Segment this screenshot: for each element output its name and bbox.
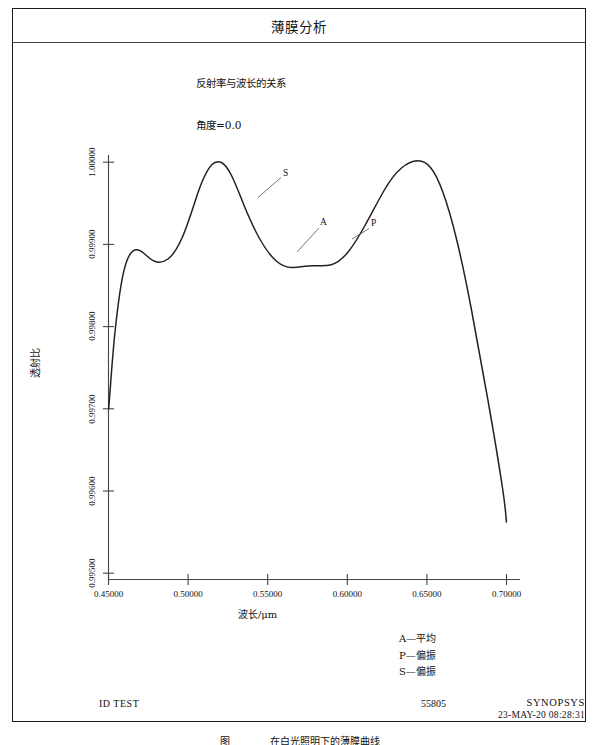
page-title: 薄膜分析 — [271, 16, 327, 36]
chart-subtitle-line2: 角度=0.0 — [196, 118, 286, 132]
x-axis-title: 波长/μm — [238, 606, 277, 621]
y-axis-title: 透射比 — [27, 323, 42, 403]
chart-subtitle-block: 反射率与波长的关系 角度=0.0 — [196, 48, 286, 160]
y-tick-label-0: 1.00000 — [87, 132, 97, 192]
x-tick-label-3: 0.60000 — [312, 589, 382, 599]
x-tick-label-5: 0.70000 — [472, 589, 542, 599]
legend: A—平均 P—偏振 S—偏振 — [399, 631, 436, 681]
screenshot-root: 薄膜分析 反射率与波长的关系 角度=0.0 — [0, 0, 599, 745]
x-tick-label-1: 0.50000 — [153, 589, 223, 599]
curve-label-a: A — [320, 217, 327, 227]
y-tick-label-1: 0.99900 — [87, 214, 97, 274]
curve-label-s: S — [283, 168, 288, 178]
footer-id-label: ID TEST — [99, 698, 139, 709]
footer-brand: SYNOPSYS — [385, 697, 585, 708]
chart-subtitle-line1: 反射率与波长的关系 — [196, 76, 286, 90]
x-tick-label-4: 0.65000 — [392, 589, 462, 599]
x-tick-label-0: 0.45000 — [74, 589, 144, 599]
curve-label-p: P — [371, 218, 376, 228]
y-tick-label-2: 0.99800 — [87, 296, 97, 356]
legend-item-s: S—偏振 — [399, 664, 436, 681]
legend-item-p: P—偏振 — [399, 648, 436, 665]
figure-caption: 图 在白光照明下的薄膜曲线 — [0, 733, 599, 745]
x-tick-label-2: 0.55000 — [233, 589, 303, 599]
report-title-bar: 薄膜分析 — [13, 9, 585, 43]
y-tick-label-4: 0.99600 — [87, 461, 97, 521]
y-tick-label-3: 0.99700 — [87, 379, 97, 439]
legend-item-a: A—平均 — [399, 631, 436, 648]
report-frame: 薄膜分析 — [12, 8, 586, 722]
footer-datetime: 23-MAY-20 08:28:31 — [365, 710, 585, 720]
